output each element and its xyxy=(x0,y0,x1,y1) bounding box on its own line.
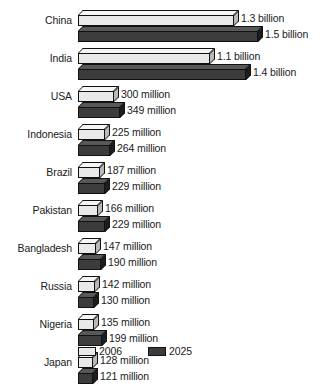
bar-value-indonesia-2025: 264 million xyxy=(117,142,166,154)
bar-value-nigeria-2025: 199 million xyxy=(109,332,158,344)
bar-value-usa-2006: 300 million xyxy=(121,88,170,100)
bar-front-face xyxy=(78,221,105,232)
bar-front-face xyxy=(78,183,105,194)
chart-row-china: China 1.3 billion 1.5 billion xyxy=(0,8,322,46)
bar-side-face xyxy=(120,102,125,118)
bar-front-face xyxy=(78,107,120,118)
bar-side-face xyxy=(95,276,100,292)
bar-side-face xyxy=(114,86,119,102)
bar-side-face xyxy=(100,162,105,178)
bar-value-pakistan-2025: 229 million xyxy=(112,218,161,230)
bar-russia-2006 xyxy=(78,276,95,287)
dark-swatch-icon xyxy=(148,347,166,356)
bar-value-japan-2025: 121 million xyxy=(100,370,149,382)
bar-russia-2025 xyxy=(78,292,94,303)
bar-front-face xyxy=(78,281,95,292)
bar-nigeria-2025 xyxy=(78,330,102,341)
bar-value-bangladesh-2006: 147 million xyxy=(103,240,152,252)
bar-value-indonesia-2006: 225 million xyxy=(112,126,161,138)
bar-pakistan-2025 xyxy=(78,216,105,227)
bar-front-face xyxy=(78,129,105,140)
legend-label-2006: 2006 xyxy=(99,345,122,357)
chart-row-indonesia: Indonesia 225 million 264 million xyxy=(0,122,322,160)
bar-india-2006 xyxy=(78,48,210,59)
bar-side-face xyxy=(94,292,99,308)
legend-item-2025: 2025 xyxy=(148,345,192,357)
bar-side-face xyxy=(110,140,115,156)
bar-value-brazil-2025: 229 million xyxy=(112,180,161,192)
bar-side-face xyxy=(93,368,98,384)
bar-pakistan-2006 xyxy=(78,200,98,211)
category-label-indonesia: Indonesia xyxy=(0,128,72,140)
bar-brazil-2006 xyxy=(78,162,100,173)
bar-front-face xyxy=(78,243,96,254)
bar-front-face xyxy=(78,15,234,26)
bar-front-face xyxy=(78,297,94,308)
bar-side-face xyxy=(105,124,110,140)
chart-row-usa: USA 300 million 349 million xyxy=(0,84,322,122)
bar-front-face xyxy=(78,205,98,216)
bar-side-face xyxy=(94,314,99,330)
bar-usa-2006 xyxy=(78,86,114,97)
bar-side-face xyxy=(246,64,251,80)
chart-row-bangladesh: Bangladesh 147 million 190 million xyxy=(0,236,322,274)
bar-nigeria-2006 xyxy=(78,314,94,325)
bar-value-russia-2006: 142 million xyxy=(102,278,151,290)
bar-value-pakistan-2006: 166 million xyxy=(105,202,154,214)
bar-bangladesh-2025 xyxy=(78,254,101,265)
category-label-pakistan: Pakistan xyxy=(0,204,72,216)
bar-side-face xyxy=(105,178,110,194)
legend-label-2025: 2025 xyxy=(169,345,192,357)
bar-bangladesh-2006 xyxy=(78,238,96,249)
chart-plot-area: China 1.3 billion 1.5 billion India 1 xyxy=(0,0,322,330)
bar-value-russia-2025: 130 million xyxy=(101,294,150,306)
bar-front-face xyxy=(78,373,93,384)
legend-item-2006: 2006 xyxy=(78,345,122,357)
light-swatch-icon xyxy=(78,347,96,356)
bar-indonesia-2006 xyxy=(78,124,105,135)
chart-legend: 2006 2025 xyxy=(78,345,218,357)
bar-front-face xyxy=(78,145,110,156)
bar-japan-2025 xyxy=(78,368,93,379)
bar-front-face xyxy=(78,69,246,80)
bar-front-face xyxy=(78,259,101,270)
bar-side-face xyxy=(96,238,101,254)
bar-side-face xyxy=(234,10,239,26)
bar-value-china-2025: 1.5 billion xyxy=(265,28,308,40)
bar-indonesia-2025 xyxy=(78,140,110,151)
bar-value-china-2006: 1.3 billion xyxy=(241,12,284,24)
category-label-russia: Russia xyxy=(0,280,72,292)
bar-usa-2025 xyxy=(78,102,120,113)
bar-side-face xyxy=(105,216,110,232)
category-label-japan: Japan xyxy=(0,356,72,368)
chart-row-india: India 1.1 billion 1.4 billion xyxy=(0,46,322,84)
bar-brazil-2025 xyxy=(78,178,105,189)
bar-value-india-2006: 1.1 billion xyxy=(217,50,260,62)
chart-row-russia: Russia 142 million 130 million xyxy=(0,274,322,312)
bar-side-face xyxy=(101,254,106,270)
bar-front-face xyxy=(78,167,100,178)
bar-value-nigeria-2006: 135 million xyxy=(101,316,150,328)
bar-front-face xyxy=(78,91,114,102)
chart-row-brazil: Brazil 187 million 229 million xyxy=(0,160,322,198)
bar-front-face xyxy=(78,357,93,368)
bar-value-brazil-2006: 187 million xyxy=(107,164,156,176)
category-label-china: China xyxy=(0,14,72,26)
bar-front-face xyxy=(78,53,210,64)
category-label-brazil: Brazil xyxy=(0,166,72,178)
bar-value-bangladesh-2025: 190 million xyxy=(108,256,157,268)
category-label-nigeria: Nigeria xyxy=(0,318,72,330)
bar-value-usa-2025: 349 million xyxy=(127,104,176,116)
bar-side-face xyxy=(98,200,103,216)
bar-side-face xyxy=(258,26,263,42)
category-label-usa: USA xyxy=(0,90,72,102)
category-label-india: India xyxy=(0,52,72,64)
bar-side-face xyxy=(210,48,215,64)
chart-row-pakistan: Pakistan 166 million 229 million xyxy=(0,198,322,236)
bar-india-2025 xyxy=(78,64,246,75)
bar-front-face xyxy=(78,319,94,330)
bar-china-2006 xyxy=(78,10,234,21)
category-label-bangladesh: Bangladesh xyxy=(0,242,72,254)
bar-front-face xyxy=(78,31,258,42)
